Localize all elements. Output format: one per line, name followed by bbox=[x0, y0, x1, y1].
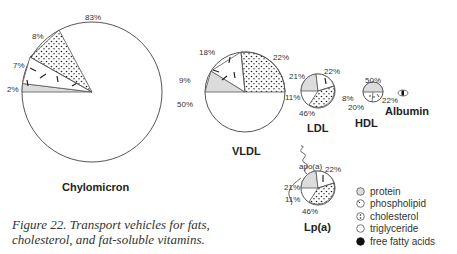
lpa-apo-label: apo(a) bbox=[299, 163, 322, 171]
legend-item-triglyceride: triglyceride bbox=[356, 223, 435, 236]
ldl-cholesterol-pct: 46% bbox=[299, 110, 315, 118]
albumin-label: Albumin bbox=[385, 106, 429, 117]
vldl-label: VLDL bbox=[232, 146, 261, 157]
chylomicron-cholesterol-pct: 8% bbox=[32, 33, 44, 41]
hdl-cholesterol-pct: 20% bbox=[348, 104, 364, 112]
lpa-protein-pct: 21% bbox=[284, 184, 300, 192]
hdl-pie bbox=[363, 82, 383, 102]
vldl-pie bbox=[205, 52, 285, 132]
hdl-label: HDL bbox=[355, 118, 378, 129]
vldl-triglyceride-pct: 50% bbox=[177, 101, 193, 109]
empty-circle-icon bbox=[356, 224, 365, 233]
legend-item-free-fatty-acids: free fatty acids bbox=[356, 235, 435, 248]
lpa-triglyceride-pct: 11% bbox=[285, 196, 300, 204]
hdl-phospholipid-pct: 22% bbox=[382, 97, 398, 105]
gray-circle-icon bbox=[356, 187, 365, 196]
figure-caption: Figure 22. Transport vehicles for fats, … bbox=[12, 217, 252, 247]
ldl-label: LDL bbox=[307, 123, 328, 134]
ldl-pie bbox=[301, 74, 335, 108]
lpa-label: Lp(a) bbox=[304, 222, 331, 233]
dot-circle-icon bbox=[356, 212, 365, 221]
vldl-protein-pct: 9% bbox=[179, 77, 191, 85]
black-circle-icon bbox=[356, 237, 365, 246]
chylomicron-protein-pct: 2% bbox=[7, 86, 19, 94]
legend-item-phospholipid: phospholipid bbox=[356, 198, 435, 211]
chylomicron-label: Chylomicron bbox=[62, 182, 129, 193]
hdl-protein-pct: 50% bbox=[365, 77, 381, 85]
vldl-cholesterol-pct: 22% bbox=[273, 54, 289, 62]
vldl-phospholipid-pct: 18% bbox=[199, 49, 215, 57]
legend-item-protein: protein bbox=[356, 185, 435, 198]
ldl-phospholipid-pct: 22% bbox=[324, 68, 340, 76]
dash-circle-icon bbox=[356, 199, 365, 208]
chylomicron-triglyceride-pct: 83% bbox=[85, 14, 101, 22]
chylomicron-phospholipid-pct: 7% bbox=[13, 62, 25, 70]
legend-item-cholesterol: cholesterol bbox=[356, 210, 435, 223]
ldl-protein-pct: 21% bbox=[289, 73, 305, 81]
lpa-phospholipid-pct: 22% bbox=[325, 166, 341, 174]
legend: protein phospholipid cholesterol triglyc… bbox=[356, 185, 435, 248]
chylomicron-pie bbox=[22, 22, 162, 162]
hdl-triglyceride-pct: 8% bbox=[342, 95, 354, 103]
lpa-cholesterol-pct: 46% bbox=[302, 208, 318, 216]
albumin-shape bbox=[398, 90, 408, 96]
ldl-triglyceride-pct: 11% bbox=[285, 94, 300, 102]
